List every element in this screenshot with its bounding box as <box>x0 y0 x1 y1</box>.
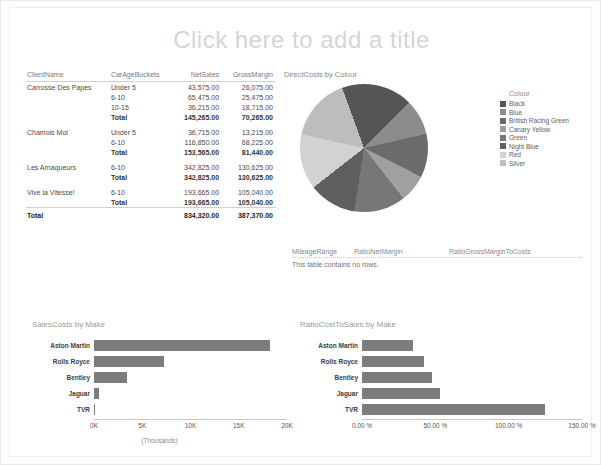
bar-track <box>362 356 582 367</box>
cell-bucket: Total <box>110 197 174 208</box>
pie-chart[interactable] <box>300 84 428 212</box>
cell-grand-blank <box>110 208 174 221</box>
bar-category-label: Rolls Royce <box>32 358 94 365</box>
table-row[interactable]: 6-10116,850.0068,225.00 <box>26 137 276 147</box>
legend-swatch-icon <box>500 101 506 107</box>
empty-table-message: This table contains no rows. <box>292 258 582 268</box>
pie-legend: Colour BlackBlueBritish Racing GreenCana… <box>500 90 586 168</box>
bar[interactable] <box>362 356 424 367</box>
salescosts-chart: SalesCosts by Make Aston MartinRolls Roy… <box>32 320 287 444</box>
legend-item[interactable]: Blue <box>500 109 586 116</box>
pie-chart-block: DirectCosts by Colour Colour BlackBlueBr… <box>282 70 582 235</box>
legend-swatch-icon <box>500 160 506 166</box>
salescosts-plot: Aston MartinRolls RoyceBentleyJaguarTVR <box>32 339 287 416</box>
bar-row[interactable]: Aston Martin <box>32 339 287 352</box>
bar[interactable] <box>362 340 413 351</box>
cell-client: Les Arnaqueurs <box>26 162 110 172</box>
axis-tick-label: 5K <box>138 422 146 429</box>
bar-row[interactable]: Jaguar <box>300 387 582 400</box>
bar[interactable] <box>94 388 99 399</box>
bar[interactable] <box>362 388 440 399</box>
salescosts-axis-caption: (Thousands) <box>32 437 287 444</box>
matrix-grid: ClientName CarAgeBuckets NetSales GrossM… <box>26 70 276 221</box>
bar-track <box>362 404 582 415</box>
bar-row[interactable]: Rolls Royce <box>32 355 287 368</box>
bar-track <box>362 372 582 383</box>
cell-bucket: Under 5 <box>110 82 174 93</box>
column-header-ratiogrossmargintocosts: RatioGrossMarginToCosts <box>449 248 531 255</box>
legend-item[interactable]: Black <box>500 100 586 107</box>
cell-grand-grossmargin: 387,370.00 <box>222 208 276 221</box>
axis-tick-label: 100.00 % <box>495 422 522 429</box>
table-row[interactable]: Carrosse Des PapesUnder 543,575.0026,075… <box>26 82 276 93</box>
table-row[interactable]: Vive la Vitesse!6-10193,665.00105,040.00 <box>26 187 276 197</box>
bar-track <box>362 340 582 351</box>
table-row[interactable]: Total342,825.00130,625.00 <box>26 172 276 182</box>
table-row[interactable]: Total145,265.0070,265.00 <box>26 112 276 122</box>
bar-category-label: Bentley <box>32 374 94 381</box>
cell-netsales: 145,265.00 <box>174 112 222 122</box>
bar[interactable] <box>94 404 95 415</box>
column-header-rationetmargin: RatioNetMargin <box>354 248 449 255</box>
bar-row[interactable]: Bentley <box>32 371 287 384</box>
report-title-placeholder[interactable]: Click here to add a title <box>10 26 593 54</box>
legend-swatch-icon <box>500 143 506 149</box>
legend-item[interactable]: Night Blue <box>500 143 586 150</box>
matrix-header-row: ClientName CarAgeBuckets NetSales GrossM… <box>26 70 276 82</box>
bar-track <box>362 388 582 399</box>
cell-client <box>26 137 110 147</box>
bar-row[interactable]: Jaguar <box>32 387 287 400</box>
cell-grossmargin: 68,225.00 <box>222 137 276 147</box>
table-row[interactable]: Total193,665.00105,040.00 <box>26 197 276 208</box>
legend-item-label: Night Blue <box>509 143 539 150</box>
cell-netsales: 43,575.00 <box>174 82 222 93</box>
axis-tick-label: 0.00 % <box>352 422 372 429</box>
ratiocosttosales-chart: RatioCostToSales by Make Aston MartinRol… <box>300 320 582 436</box>
bar-row[interactable]: Rolls Royce <box>300 355 582 368</box>
bar[interactable] <box>362 372 432 383</box>
matrix-body: Carrosse Des PapesUnder 543,575.0026,075… <box>26 82 276 221</box>
bar-category-label: Aston Martin <box>300 342 362 349</box>
bar[interactable] <box>362 404 545 415</box>
pie-chart-area <box>300 84 445 214</box>
table-row[interactable]: Chamois MolUnder 536,715.0013,215.00 <box>26 127 276 137</box>
bar-row[interactable]: TVR <box>32 403 287 416</box>
bar-track <box>94 372 287 383</box>
bar[interactable] <box>94 372 127 383</box>
bar[interactable] <box>94 340 270 351</box>
bar-category-label: Jaguar <box>300 390 362 397</box>
bar-category-label: Rolls Royce <box>300 358 362 365</box>
bar-category-label: TVR <box>300 406 362 413</box>
cell-bucket: 6-10 <box>110 137 174 147</box>
cell-grand-label: Total <box>26 208 110 221</box>
legend-item[interactable]: Canary Yellow <box>500 126 586 133</box>
cell-bucket: 10-15 <box>110 102 174 112</box>
legend-item-label: Silver <box>509 160 525 167</box>
cell-client: Chamois Mol <box>26 127 110 137</box>
cell-client <box>26 112 110 122</box>
legend-item-label: Blue <box>509 109 522 116</box>
legend-item[interactable]: Silver <box>500 160 586 167</box>
legend-item[interactable]: Red <box>500 151 586 158</box>
legend-item[interactable]: Green <box>500 134 586 141</box>
legend-item[interactable]: British Racing Green <box>500 117 586 124</box>
legend-item-label: British Racing Green <box>509 117 569 124</box>
cell-grossmargin: 105,040.00 <box>222 197 276 208</box>
axis-tick-label: 150.00 % <box>568 422 595 429</box>
table-row[interactable]: 6-1065,475.0025,475.00 <box>26 92 276 102</box>
salescosts-chart-title: SalesCosts by Make <box>32 320 287 329</box>
legend-item-label: Red <box>509 151 521 158</box>
table-row[interactable]: Total153,565.0081,440.00 <box>26 147 276 157</box>
column-header-netsales: NetSales <box>174 70 222 82</box>
cell-client: Vive la Vitesse! <box>26 187 110 197</box>
cell-grossmargin: 81,440.00 <box>222 147 276 157</box>
table-row[interactable]: Les Arnaqueurs6-10342,825.00130,625.00 <box>26 162 276 172</box>
bar-row[interactable]: Aston Martin <box>300 339 582 352</box>
cell-grossmargin: 130,625.00 <box>222 172 276 182</box>
table-row[interactable]: 10-1536,215.0018,715.00 <box>26 102 276 112</box>
bar-row[interactable]: TVR <box>300 403 582 416</box>
cell-netsales: 36,715.00 <box>174 127 222 137</box>
bar[interactable] <box>94 356 164 367</box>
legend-swatch-icon <box>500 135 506 141</box>
bar-row[interactable]: Bentley <box>300 371 582 384</box>
